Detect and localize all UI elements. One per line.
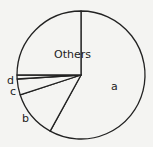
slice-label-d: d xyxy=(7,74,14,87)
slice-label-others: Others xyxy=(54,48,91,61)
pie-chart: abcdOthers xyxy=(0,0,153,147)
slice-label-b: b xyxy=(22,112,29,125)
pie-slices xyxy=(17,11,145,139)
slice-label-a: a xyxy=(111,80,118,93)
pie-slice-others xyxy=(17,11,81,75)
